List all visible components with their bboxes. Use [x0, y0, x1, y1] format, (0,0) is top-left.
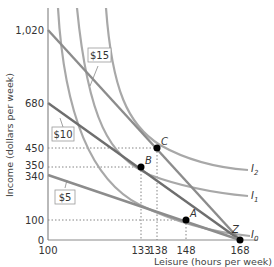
- svg-text:100: 100: [38, 245, 57, 256]
- svg-text:I2: I2: [251, 163, 259, 177]
- axes: [48, 8, 258, 240]
- svg-text:I0: I0: [251, 229, 259, 243]
- svg-text:$15: $15: [90, 50, 109, 61]
- y-tick-labels: 1,020 680 450 350 340 100 0: [15, 25, 44, 246]
- indifference-curve-i0: [58, 8, 250, 236]
- svg-text:1,020: 1,020: [15, 25, 44, 36]
- x-axis-label: Leisure (hours per week): [154, 256, 272, 267]
- svg-text:I1: I1: [251, 190, 258, 204]
- point-z: [237, 237, 244, 244]
- indifference-curve-i2: [106, 8, 248, 170]
- curve-labels: I2 I1 I0: [251, 163, 259, 243]
- svg-text:138: 138: [148, 245, 167, 256]
- y-axis-label: Income (dollars per week): [4, 73, 15, 197]
- svg-text:680: 680: [25, 98, 44, 109]
- labor-supply-chart: Income (dollars per week) 1,020 680 450 …: [0, 0, 274, 267]
- budget-line-10: [48, 103, 240, 240]
- svg-text:340: 340: [25, 171, 44, 182]
- svg-text:148: 148: [176, 245, 195, 256]
- svg-text:$5: $5: [59, 192, 72, 203]
- svg-text:350: 350: [25, 160, 44, 171]
- svg-text:$10: $10: [53, 129, 72, 140]
- svg-text:A: A: [189, 208, 197, 219]
- point-b: [138, 164, 145, 171]
- price-label-10: $10: [52, 118, 74, 141]
- x-tick-labels: 100 133 138 148 168: [38, 245, 249, 256]
- svg-text:100: 100: [25, 215, 44, 226]
- svg-text:C: C: [161, 136, 168, 147]
- svg-text:Z: Z: [231, 224, 240, 235]
- point-a: [183, 217, 190, 224]
- price-label-15: $15: [88, 48, 111, 86]
- svg-text:168: 168: [230, 245, 249, 256]
- indifference-curves: [58, 8, 250, 236]
- svg-text:B: B: [145, 155, 152, 166]
- point-c: [154, 145, 161, 152]
- svg-text:450: 450: [25, 143, 44, 154]
- budget-lines: [48, 30, 240, 240]
